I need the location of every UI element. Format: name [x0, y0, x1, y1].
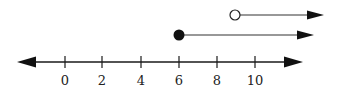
axis-tick-labels: 0 2 4 6 8 10: [61, 73, 263, 88]
closed-ray: [174, 30, 315, 41]
number-line-diagram: 0 2 4 6 8 10: [0, 0, 337, 90]
tick-label-6: 6: [175, 73, 183, 88]
open-ray-arrowhead-icon: [307, 11, 324, 20]
tick-label-10: 10: [247, 73, 264, 88]
closed-ray-arrowhead-icon: [297, 31, 314, 40]
tick-label-4: 4: [137, 73, 145, 88]
tick-label-0: 0: [61, 73, 69, 88]
open-ray: [230, 10, 324, 20]
axis-right-arrowhead-icon: [284, 57, 303, 68]
open-circle-endpoint-icon: [230, 10, 240, 20]
tick-label-8: 8: [213, 73, 221, 88]
axis-left-arrowhead-icon: [17, 57, 36, 68]
closed-circle-endpoint-icon: [174, 30, 185, 41]
number-line-axis: 0 2 4 6 8 10: [17, 56, 303, 88]
tick-label-2: 2: [98, 73, 106, 88]
